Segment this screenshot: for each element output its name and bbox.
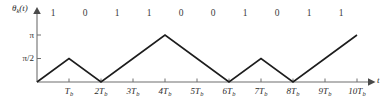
x-tick-label-4: 4Tb bbox=[150, 87, 180, 96]
x-tick-label-3: 3Tb bbox=[118, 87, 148, 96]
x-tick-sub-10: b bbox=[362, 90, 365, 97]
bit-label-6: 0 bbox=[205, 9, 221, 19]
bit-label-9: 1 bbox=[301, 9, 317, 19]
x-tick-text-3: 3T bbox=[127, 86, 137, 96]
x-tick-text-10: 10T bbox=[348, 86, 362, 96]
y-axis-label: θk(t) bbox=[12, 4, 28, 13]
x-tick-sub-6: b bbox=[232, 90, 235, 97]
x-tick-sub-3: b bbox=[136, 90, 139, 97]
x-tick-label-1: Tb bbox=[54, 87, 84, 96]
x-tick-text-6: 6T bbox=[223, 86, 233, 96]
x-tick-text-4: 4T bbox=[159, 86, 169, 96]
bit-label-4: 1 bbox=[141, 9, 157, 19]
x-tick-sub-2: b bbox=[104, 90, 107, 97]
phase-trajectory-figure: θk(t) t π π/2 Tb 2Tb 3Tb 4Tb 5Tb 6Tb 7Tb… bbox=[0, 0, 387, 107]
y-axis-ticks bbox=[37, 35, 41, 59]
bit-label-3: 1 bbox=[109, 9, 125, 19]
x-tick-label-2: 2Tb bbox=[86, 87, 116, 96]
phase-trajectory-line bbox=[37, 35, 357, 82]
bit-label-1: 1 bbox=[45, 9, 61, 19]
bit-label-7: 1 bbox=[237, 9, 253, 19]
x-tick-text-5: 5T bbox=[191, 86, 201, 96]
x-axis-arrow bbox=[368, 78, 376, 86]
x-tick-label-5: 5Tb bbox=[182, 87, 212, 96]
x-tick-label-9: 9Tb bbox=[310, 87, 340, 96]
y-axis-arrow bbox=[33, 7, 41, 14]
y-axis-label-arg: (t) bbox=[19, 3, 28, 13]
bit-label-10: 1 bbox=[333, 9, 349, 19]
bit-label-8: 0 bbox=[269, 9, 285, 19]
x-tick-label-6: 6Tb bbox=[214, 87, 244, 96]
bit-label-2: 0 bbox=[77, 9, 93, 19]
x-tick-text-2: 2T bbox=[95, 86, 105, 96]
x-tick-text-8: 8T bbox=[287, 86, 297, 96]
x-tick-label-7: 7Tb bbox=[246, 87, 276, 96]
y-axis-label-subscript: k bbox=[16, 7, 19, 14]
x-tick-sub-9: b bbox=[328, 90, 331, 97]
x-tick-sub-1: b bbox=[70, 90, 73, 97]
x-tick-label-8: 8Tb bbox=[278, 87, 308, 96]
x-tick-sub-7: b bbox=[264, 90, 267, 97]
x-tick-text-9: 9T bbox=[319, 86, 329, 96]
x-tick-sub-4: b bbox=[168, 90, 171, 97]
y-tick-label-pi: π bbox=[10, 31, 34, 40]
x-tick-sub-5: b bbox=[200, 90, 203, 97]
bit-label-5: 0 bbox=[173, 9, 189, 19]
x-tick-label-10: 10Tb bbox=[342, 87, 372, 96]
x-tick-sub-8: b bbox=[296, 90, 299, 97]
x-tick-text-7: 7T bbox=[255, 86, 265, 96]
x-axis-label: t bbox=[377, 76, 380, 85]
y-tick-label-pi-over-2: π/2 bbox=[10, 54, 34, 63]
